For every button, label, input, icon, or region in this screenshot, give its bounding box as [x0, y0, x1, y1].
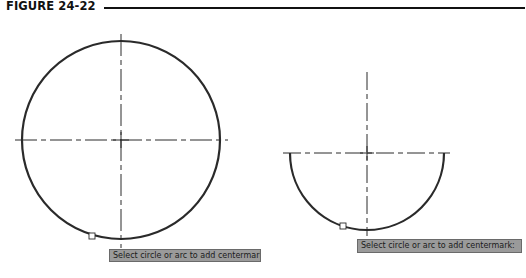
- pick-box-icon: [340, 223, 346, 229]
- command-tooltip-right: Select circle or arc to add centermark:: [357, 239, 522, 253]
- cad-drawing: [0, 0, 526, 278]
- command-tooltip-left: Select circle or arc to add centermark:: [109, 249, 261, 262]
- left-circle-view: [15, 34, 228, 248]
- right-arc-view: [283, 72, 450, 236]
- pick-box-icon: [89, 233, 95, 239]
